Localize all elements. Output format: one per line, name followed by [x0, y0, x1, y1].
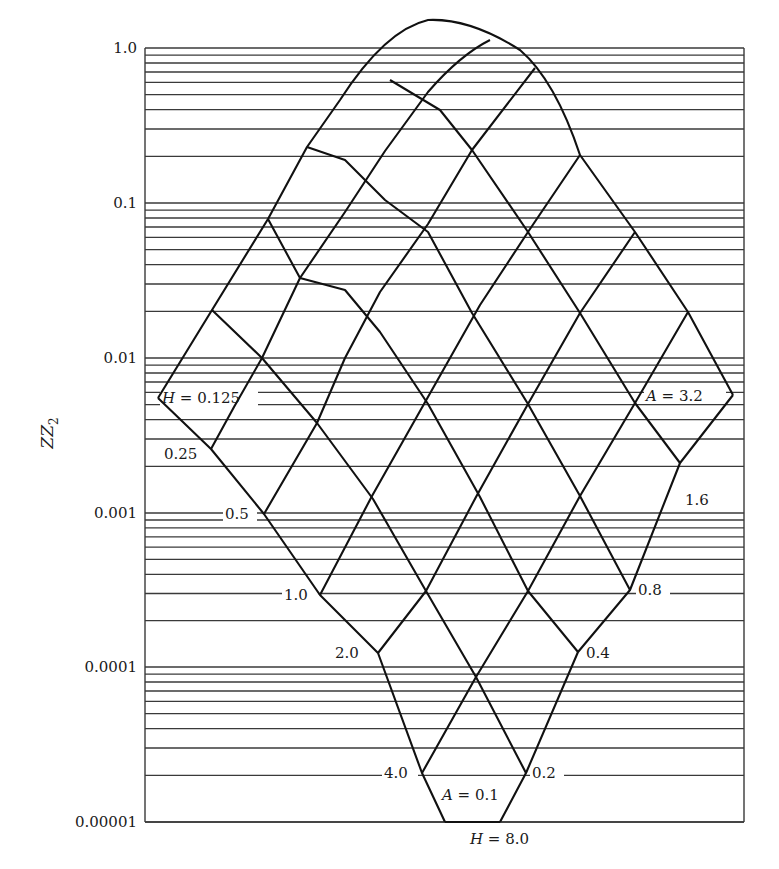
y-axis-title-main: ZZ	[37, 424, 57, 450]
label-h-2.0: 2.0	[335, 644, 359, 662]
svg-text:ZZ2: ZZ2	[37, 417, 61, 449]
ytick-label: 0.1	[113, 194, 137, 212]
label-h-0.125: H = 0.125	[161, 389, 240, 407]
label-a-1.6: 1.6	[685, 491, 709, 509]
ytick-label: 0.001	[94, 504, 137, 522]
y-axis: 1.0 0.1 0.01 0.001 0.0001 0.00001	[75, 39, 137, 831]
label-a-0.2: 0.2	[532, 764, 556, 782]
curve-a-0.1	[158, 398, 445, 822]
label-h-0.5: 0.5	[225, 505, 249, 523]
label-h-0.25: 0.25	[164, 445, 197, 463]
label-h-4.0: 4.0	[384, 764, 408, 782]
ytick-label: 0.0001	[85, 658, 138, 676]
ytick-label: 0.01	[104, 349, 137, 367]
y-axis-title: ZZ2	[37, 417, 61, 449]
curve-h-1.0	[320, 155, 580, 595]
label-a-0.8: 0.8	[638, 581, 662, 599]
curve-h-2.0	[378, 232, 635, 653]
ytick-label: 1.0	[113, 39, 137, 57]
y-axis-title-subscript: 2	[47, 417, 61, 425]
curve-a-0.2	[212, 310, 526, 773]
label-h-8.0: H = 8.0	[469, 830, 529, 848]
ytick-label: 0.00001	[75, 813, 137, 831]
curve-a-0.8	[307, 147, 630, 590]
label-h-1.0: 1.0	[284, 586, 308, 604]
nomograph-chart: 1.0 0.1 0.01 0.001 0.0001 0.00001 ZZ2	[0, 0, 779, 869]
label-a-0.1: A = 0.1	[440, 786, 499, 804]
label-a-3.2: A = 3.2	[644, 387, 703, 405]
curve-labels: H = 0.125 0.25 0.5 1.0 2.0 4.0 A = 0.1 H…	[161, 387, 709, 848]
label-a-0.4: 0.4	[586, 644, 610, 662]
curve-a-1.6	[390, 80, 680, 463]
curve-h-8.0	[500, 395, 733, 822]
